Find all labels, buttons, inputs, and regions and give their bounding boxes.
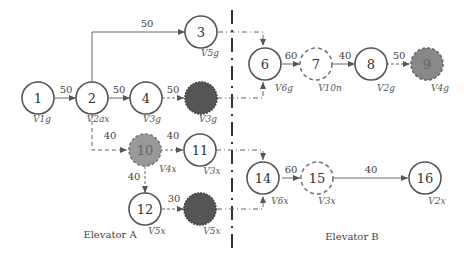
node-v-label: V3g — [199, 114, 217, 124]
node-5 — [185, 82, 217, 114]
elevator-b-label: Elevator B — [325, 231, 378, 242]
node-number: 11 — [192, 143, 209, 158]
node-v-label: V5x — [203, 226, 220, 236]
node-v-label: V3x — [318, 196, 335, 206]
node-number: 10 — [137, 143, 154, 158]
node-number: 15 — [309, 171, 326, 186]
node-number: 4 — [142, 91, 150, 106]
node-number: 3 — [197, 25, 205, 40]
node-v-label: V5g — [201, 48, 219, 58]
node-number: 2 — [88, 91, 96, 106]
edge-weight: 40 — [339, 50, 352, 61]
edge-5-6 — [217, 82, 263, 98]
node-13 — [184, 193, 216, 225]
node-v-label: V10n — [318, 83, 342, 93]
node-v-label: V5x — [148, 226, 165, 236]
node-v-label: V6g — [275, 83, 293, 93]
node-v-label: V4g — [431, 83, 449, 93]
edge-weight: 60 — [285, 164, 298, 175]
edge-weight: 50 — [60, 84, 73, 95]
edge-weight: 50 — [393, 50, 406, 61]
edge-weight: 40 — [128, 171, 141, 182]
edge-weight: 50 — [141, 18, 154, 29]
edge-weight: 50 — [167, 84, 180, 95]
edge-weight: 40 — [104, 130, 117, 141]
node-number: 1 — [34, 91, 42, 106]
node-v-label: V1g — [33, 114, 51, 124]
edge-weight: 30 — [168, 193, 181, 204]
node-v-label: V4x — [159, 164, 176, 174]
node-v-label: V2x — [428, 196, 445, 206]
node-number: 6 — [261, 57, 269, 72]
edge-2-3 — [92, 32, 185, 82]
node-v-label: V2ax — [87, 114, 110, 124]
node-v-label: V6x — [271, 196, 288, 206]
node-number: 12 — [137, 202, 154, 217]
edge-weight: 60 — [285, 50, 298, 61]
edge-3-6 — [218, 32, 263, 46]
edge-11-14 — [216, 150, 263, 160]
node-number: 14 — [255, 171, 272, 186]
edge-weight: 50 — [113, 84, 126, 95]
node-number: 16 — [417, 171, 434, 186]
node-number: 7 — [312, 57, 320, 72]
node-v-label: V3g — [143, 114, 161, 124]
edge-weight: 40 — [365, 164, 378, 175]
elevator-a-label: Elevator A — [83, 229, 137, 240]
network-diagram: 50 50 50 50 40 40 40 30 60 40 50 60 40 1… — [0, 0, 476, 262]
edge-weight: 40 — [167, 130, 180, 141]
node-number: 8 — [367, 57, 375, 72]
edge-13-14 — [217, 196, 263, 209]
node-v-label: V3x — [203, 166, 220, 176]
node-v-label: V2g — [377, 83, 395, 93]
node-number: 9 — [423, 57, 431, 72]
